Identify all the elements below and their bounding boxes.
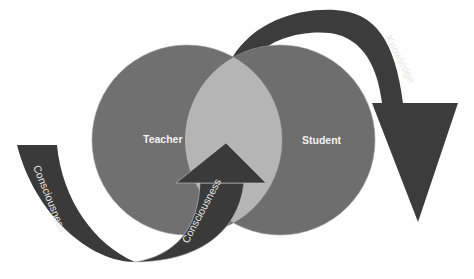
venn-diagram: Teacher Student Knowledge Consciousness … bbox=[0, 0, 474, 279]
teacher-label: Teacher bbox=[143, 133, 183, 145]
student-label: Student bbox=[302, 134, 342, 146]
knowledge-arrowhead bbox=[372, 103, 458, 222]
